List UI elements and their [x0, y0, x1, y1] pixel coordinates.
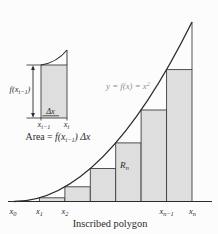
area-formula: Area = f(xi−1) Δx [26, 131, 91, 143]
curve-equation-label: y = f(x) = x2 [105, 80, 151, 91]
height-arrow-down-head [31, 113, 35, 118]
riemann-rectangle-6 [167, 70, 192, 202]
figure-canvas: f(xi−1) Δx xi−1 xi Area = f(xi−1) Δx y =… [0, 0, 218, 234]
riemann-rectangle-2 [65, 187, 90, 202]
riemann-rectangle-1 [39, 198, 65, 202]
height-label: f(xi−1) [10, 85, 31, 95]
height-arrow-up-head [31, 65, 35, 70]
unit-rectangle-inset: f(xi−1) Δx xi−1 xi Area = f(xi−1) Δx [10, 50, 91, 143]
axis-label-xn: xn [188, 206, 196, 217]
riemann-rectangle-4 [116, 143, 141, 202]
inscribed-polygon-figure: f(xi−1) Δx xi−1 xi Area = f(xi−1) Δx y =… [0, 0, 218, 234]
delta-x-label: Δx [45, 107, 55, 116]
x-i-label: xi [63, 120, 70, 130]
x-i-minus-1-label: xi−1 [37, 120, 51, 130]
axis-label-xn-minus-1: xn−1 [158, 206, 173, 217]
axis-label-x0: x0 [9, 206, 18, 217]
riemann-rectangle-5 [141, 110, 167, 202]
axis-label-x2: x2 [61, 206, 70, 217]
inset-curve-segment [41, 50, 67, 65]
caption: Inscribed polygon [73, 218, 148, 229]
riemann-rectangle-3 [90, 169, 115, 202]
axis-label-x1: x1 [35, 206, 43, 217]
